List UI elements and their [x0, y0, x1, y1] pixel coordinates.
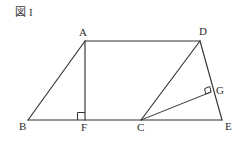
vertex-label-f: F [81, 122, 87, 133]
segment-de [200, 41, 222, 120]
vertex-label-a: A [79, 27, 87, 38]
vertex-label-e: E [225, 121, 232, 132]
right-angle-mark-f [78, 113, 86, 121]
vertex-label-d: D [199, 26, 207, 37]
right-angle-mark-g [205, 87, 211, 95]
geometry-diagram [0, 0, 245, 147]
vertex-label-c: C [137, 122, 144, 133]
segment-ab [28, 41, 85, 120]
vertex-label-b: B [19, 121, 26, 132]
figure-canvas: 図 I A B C D E F G [0, 0, 245, 147]
vertex-label-g: G [216, 85, 224, 96]
